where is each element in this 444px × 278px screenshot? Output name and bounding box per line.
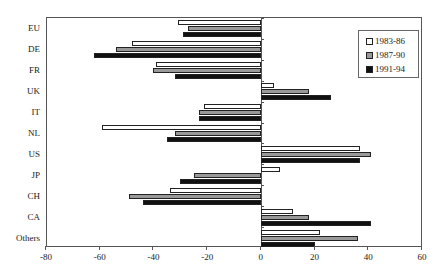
bar-fr-1983-86 (156, 62, 261, 67)
bar-ca-1987-90 (261, 215, 309, 220)
bar-de-1991-94 (94, 53, 261, 58)
category-label: Others (0, 233, 40, 243)
category-label: FR (0, 65, 40, 75)
grouped-horizontal-bar-chart: EUDEFRUKITNLUSJPCHCAOthers -80-60-40-200… (0, 0, 444, 278)
y-tick (261, 185, 264, 186)
legend-swatch-icon (366, 38, 373, 45)
x-tick-label: -60 (85, 252, 115, 262)
bar-nl-1987-90 (175, 131, 261, 136)
y-tick (261, 102, 264, 103)
x-tick-label: 60 (407, 252, 437, 262)
category-label: CH (0, 191, 40, 201)
bar-fr-1987-90 (153, 68, 260, 73)
x-tick-label: 0 (246, 252, 276, 262)
x-tick (152, 246, 153, 250)
y-tick (261, 206, 264, 207)
category-label: EU (0, 23, 40, 33)
category-label: UK (0, 86, 40, 96)
bar-it-1983-86 (204, 104, 260, 109)
x-tick (206, 246, 207, 250)
x-tick (45, 246, 46, 250)
y-tick (261, 164, 264, 165)
bar-ch-1987-90 (129, 194, 261, 199)
legend-item: 1991-94 (366, 62, 418, 76)
x-tick-label: -80 (31, 252, 61, 262)
bar-eu-1991-94 (183, 32, 261, 37)
legend-label: 1987-90 (375, 50, 405, 60)
bar-de-1987-90 (116, 47, 261, 52)
bar-jp-1983-86 (261, 167, 280, 172)
y-tick (261, 227, 264, 228)
bar-it-1991-94 (199, 116, 261, 121)
bar-us-1991-94 (261, 158, 360, 163)
x-tick-label: -20 (192, 252, 222, 262)
bar-de-1983-86 (132, 41, 261, 46)
bar-eu-1983-86 (178, 20, 261, 25)
legend-item: 1987-90 (366, 48, 418, 62)
bar-jp-1991-94 (180, 179, 261, 184)
legend-label: 1991-94 (375, 64, 405, 74)
bar-it-1987-90 (199, 110, 261, 115)
y-tick (261, 18, 264, 19)
y-tick (261, 81, 264, 82)
x-tick-label: -40 (138, 252, 168, 262)
bar-ch-1991-94 (143, 200, 261, 205)
bar-us-1983-86 (261, 146, 360, 151)
bar-ca-1991-94 (261, 221, 371, 226)
x-tick (314, 246, 315, 250)
category-label: NL (0, 128, 40, 138)
category-label: IT (0, 107, 40, 117)
x-tick (99, 246, 100, 250)
bar-eu-1987-90 (188, 26, 261, 31)
category-label: JP (0, 170, 40, 180)
legend: 1983-861987-901991-94 (358, 30, 419, 78)
bar-others-1983-86 (261, 230, 320, 235)
category-label: DE (0, 44, 40, 54)
x-tick (367, 246, 368, 250)
x-tick (260, 246, 261, 250)
bar-nl-1991-94 (167, 137, 261, 142)
legend-item: 1983-86 (366, 34, 418, 48)
bar-others-1991-94 (261, 242, 315, 247)
bar-uk-1983-86 (261, 83, 274, 88)
legend-label: 1983-86 (375, 36, 405, 46)
bar-jp-1987-90 (194, 173, 261, 178)
x-tick-label: 20 (300, 252, 330, 262)
x-tick-label: 40 (353, 252, 383, 262)
bar-us-1987-90 (261, 152, 371, 157)
y-tick (261, 123, 264, 124)
category-label: CA (0, 212, 40, 222)
bar-fr-1991-94 (175, 74, 261, 79)
bar-others-1987-90 (261, 236, 358, 241)
bar-nl-1983-86 (102, 125, 260, 130)
bar-uk-1987-90 (261, 89, 309, 94)
category-label: US (0, 149, 40, 159)
bar-ch-1983-86 (170, 188, 261, 193)
y-tick (261, 39, 264, 40)
y-tick (261, 60, 264, 61)
legend-swatch-icon (366, 52, 373, 59)
y-tick (261, 143, 264, 144)
bar-ca-1983-86 (261, 209, 293, 214)
legend-swatch-icon (366, 66, 373, 73)
bar-uk-1991-94 (261, 95, 331, 100)
x-tick (421, 246, 422, 250)
